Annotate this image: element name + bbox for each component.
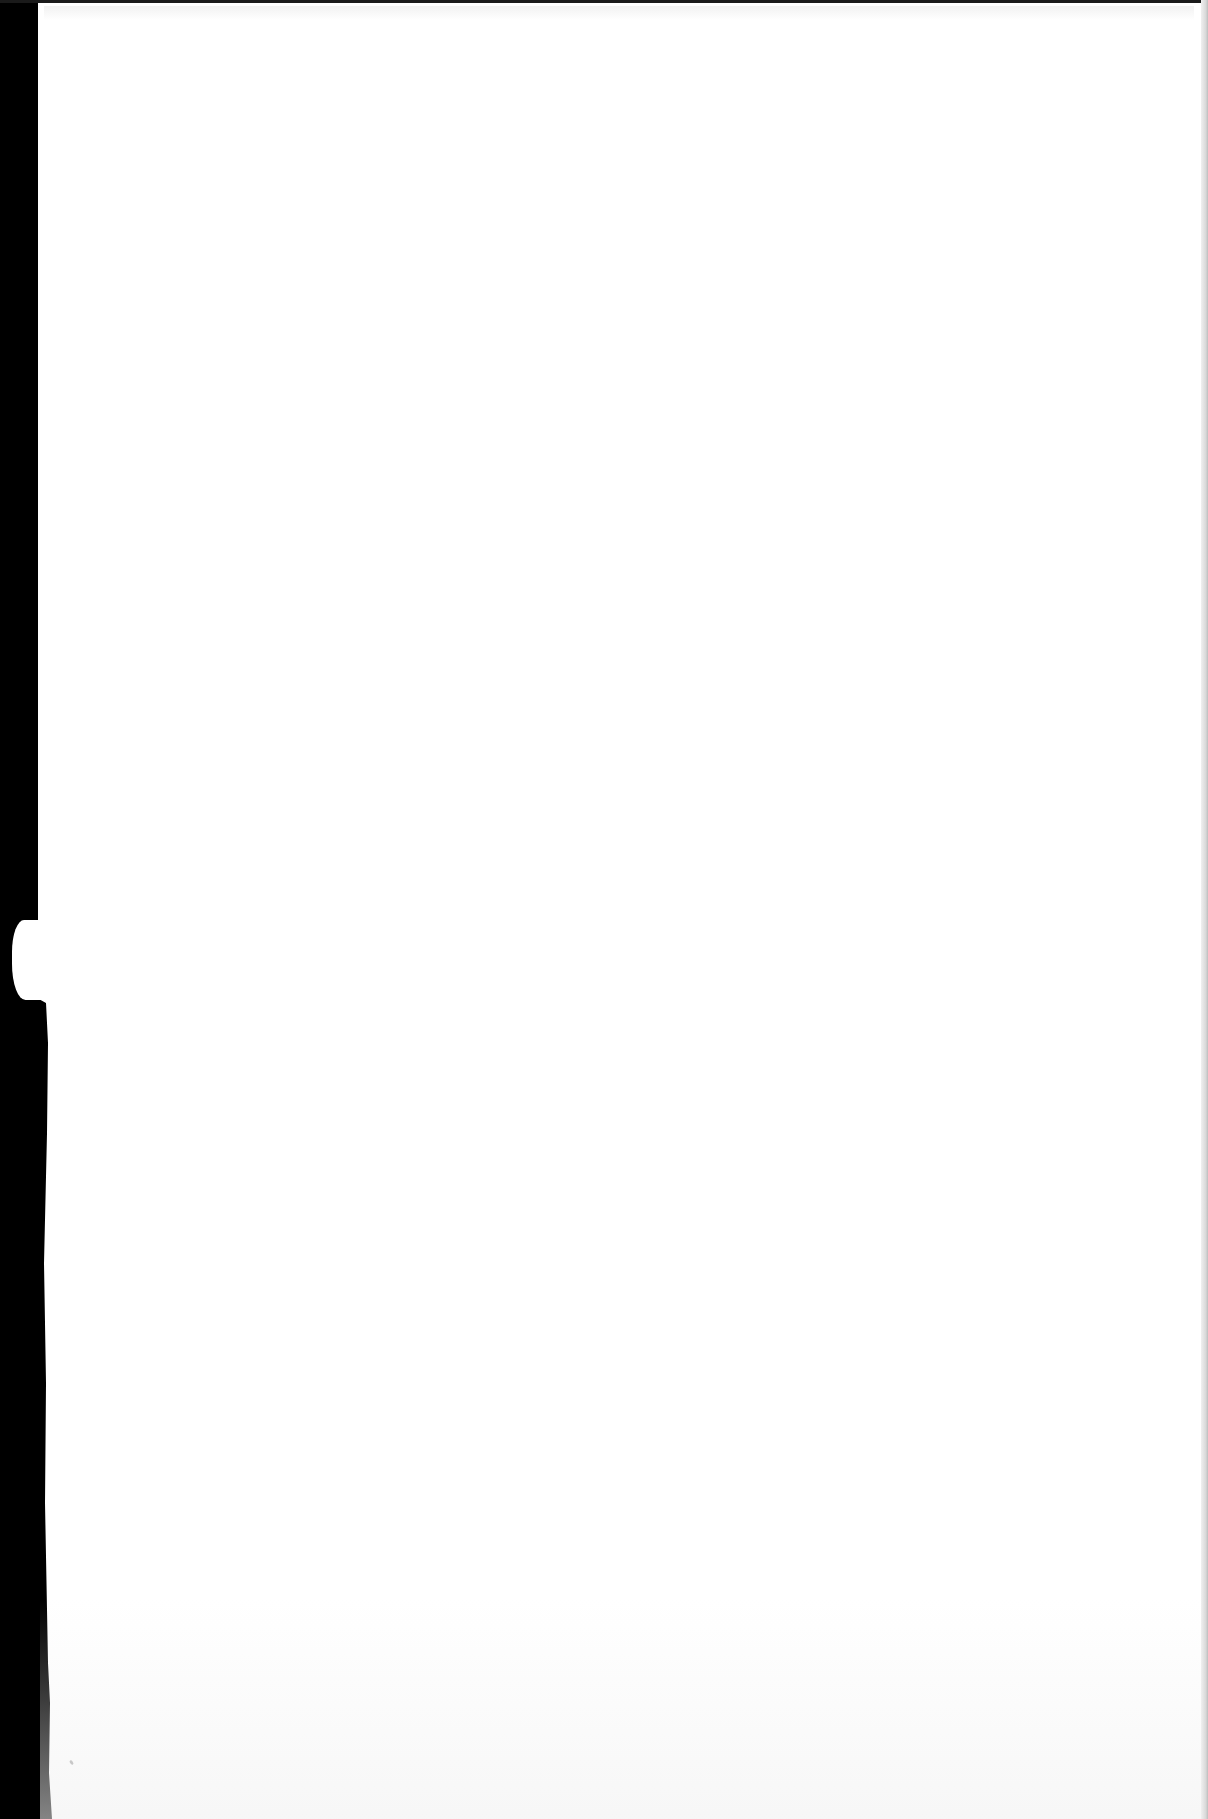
scanner-right-edge bbox=[1201, 0, 1208, 1819]
paper-grain-shading bbox=[40, 1599, 1201, 1819]
scanner-top-edge bbox=[0, 0, 1208, 3]
bleed-through-noise bbox=[44, 6, 1194, 20]
blank-paper-sheet bbox=[38, 3, 1201, 1819]
scanned-page bbox=[0, 0, 1208, 1819]
